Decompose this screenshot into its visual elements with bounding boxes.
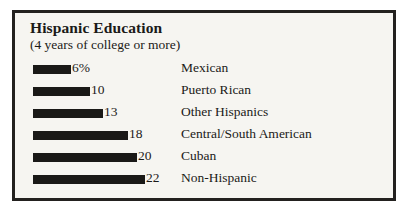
- bar: [33, 131, 128, 140]
- bar: [33, 87, 90, 96]
- category-label: Puerto Rican: [181, 82, 251, 98]
- bar-track: 20: [33, 147, 183, 169]
- bar-row: 6% Mexican: [15, 59, 393, 81]
- bar-value-label: 6%: [72, 60, 90, 76]
- bar: [33, 153, 137, 162]
- bar: [33, 175, 145, 184]
- bar-value-label: 10: [91, 82, 105, 98]
- bar-track: 6%: [33, 59, 183, 81]
- category-label: Central/South American: [181, 126, 312, 142]
- category-label: Non-Hispanic: [181, 170, 257, 186]
- figure-border: Hispanic Education (4 years of college o…: [12, 10, 396, 201]
- bar-row: 20 Cuban: [15, 147, 393, 169]
- bar-track: 18: [33, 125, 183, 147]
- bar-value-label: 22: [146, 170, 160, 186]
- bar-track: 22: [33, 169, 183, 191]
- chart-subtitle: (4 years of college or more): [30, 37, 180, 53]
- bar-value-label: 20: [138, 148, 152, 164]
- bar-track: 13: [33, 103, 183, 125]
- chart-title: Hispanic Education: [30, 19, 162, 37]
- chart-figure: Hispanic Education (4 years of college o…: [0, 0, 409, 213]
- bar: [33, 65, 71, 74]
- bar-row: 13 Other Hispanics: [15, 103, 393, 125]
- bar-row: 22 Non-Hispanic: [15, 169, 393, 191]
- category-label: Mexican: [181, 60, 228, 76]
- bar-value-label: 18: [129, 126, 143, 142]
- category-label: Cuban: [181, 148, 216, 164]
- bar-track: 10: [33, 81, 183, 103]
- bar-rows: 6% Mexican 10 Puerto Rican 13: [15, 59, 393, 191]
- figure-canvas: Hispanic Education (4 years of college o…: [15, 13, 393, 198]
- bar: [33, 109, 103, 118]
- bar-row: 18 Central/South American: [15, 125, 393, 147]
- category-label: Other Hispanics: [181, 104, 268, 120]
- bar-row: 10 Puerto Rican: [15, 81, 393, 103]
- bar-value-label: 13: [104, 104, 118, 120]
